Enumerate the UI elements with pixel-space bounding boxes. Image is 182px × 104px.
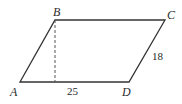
vertex-label-d: D <box>121 85 131 99</box>
parallelogram-diagram: A B C D 25 18 <box>0 0 182 104</box>
vertex-label-a: A <box>9 85 18 99</box>
vertex-label-c: C <box>167 8 176 22</box>
parallelogram-abcd <box>20 20 165 82</box>
vertex-label-b: B <box>53 5 61 19</box>
base-length-label: 25 <box>67 85 79 97</box>
side-length-label: 18 <box>152 50 164 62</box>
